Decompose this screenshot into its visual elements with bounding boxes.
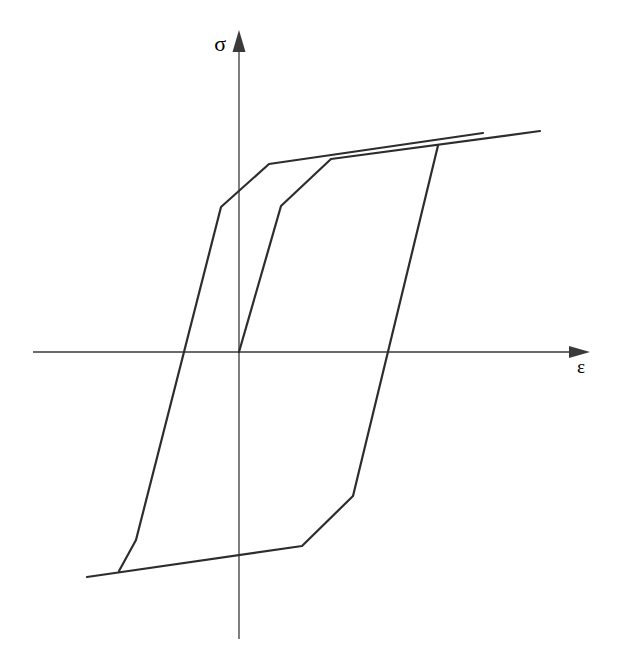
initial-loading-curve	[239, 131, 540, 352]
hysteresis-diagram: σ ε	[0, 0, 617, 659]
hysteresis-figure: σ ε	[0, 0, 617, 659]
epsilon-axis-label: ε	[577, 356, 585, 377]
sigma-axis-arrowhead-icon	[233, 30, 246, 52]
sigma-axis-label: σ	[214, 31, 226, 56]
unloading-compression-curve	[87, 146, 438, 578]
curves-group	[87, 131, 540, 577]
